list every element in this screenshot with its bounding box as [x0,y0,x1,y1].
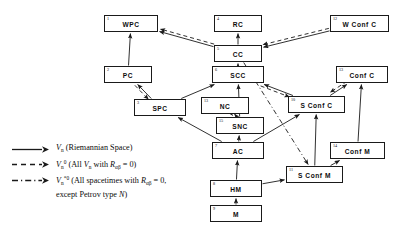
edge-hm-to-ac-solid [236,161,237,180]
node-wpc[interactable]: 1WPC [104,15,158,32]
edge-pc-to-wpc-solid [129,34,131,66]
node-m[interactable]: 9M [210,205,262,222]
legend-label-solid: Vn (Riemannian Space) [56,142,187,156]
node-confm[interactable]: 14Conf M [330,142,385,159]
node-label: WPC [105,20,157,27]
edge-pc-to-spc-dashed [135,85,149,99]
node-label: SNC [217,122,263,129]
node-label: W Conf C [331,20,388,27]
legend-line-dashdot [12,176,50,185]
node-label: Conf C [337,71,387,78]
node-label: Conf M [331,147,384,154]
legend-item-dashed: Vn0 (All Vn with Rαβ = 0) [12,157,187,173]
edge-snc-to-nc-solid [235,114,236,115]
legend-item-solid: Vn (Riemannian Space) [12,142,187,157]
node-sconfc[interactable]: 10S Conf C [288,96,345,113]
node-sconfm[interactable]: 11S Conf M [286,166,343,183]
node-pc[interactable]: 2PC [104,66,152,83]
node-label: SCC [213,71,263,78]
node-label: RC [215,20,261,27]
node-nc[interactable]: 13NC [201,97,249,114]
node-cc[interactable]: 5CC [214,45,262,62]
node-snc[interactable]: 15SNC [216,117,264,134]
legend-label-dashed: Vn0 (All Vn with Rαβ = 0) [56,157,187,173]
node-hm[interactable]: 8HM [210,180,262,197]
node-spc[interactable]: 3SPC [134,99,186,116]
node-label: S Conf C [289,101,344,108]
node-wconfc[interactable]: 12W Conf C [330,15,389,32]
node-label: NC [202,102,248,109]
node-scc[interactable]: 6SCC [212,66,264,83]
edge-scc-to-sconfc-dashed [261,86,290,97]
legend-item-dashdot: Vn*0 (All spacetimes with Rαβ = 0,except… [12,173,187,201]
edge-sconfm-to-confm-solid [331,161,340,166]
legend-line-solid [12,145,50,154]
node-label: PC [105,71,151,78]
node-confc[interactable]: 13Conf C [336,66,388,83]
edge-sconfc-to-confc-solid [330,85,347,96]
node-ac[interactable]: 7AC [212,142,264,159]
node-label: HM [211,185,261,192]
edge-nc-to-snc-solid [232,115,233,116]
node-label: SPC [135,104,185,111]
diagram-canvas: 1WPC4RC12W Conf C5CC2PC6SCC13Conf C3SPC1… [0,0,395,232]
edge-sconfc-to-scc-solid [264,85,293,96]
node-label: AC [213,147,263,154]
edge-cc-to-wpc-solid [160,31,214,46]
node-label: CC [215,50,261,57]
edge-wconfc-to-cc-solid [264,31,330,47]
edge-spc-to-pc-solid [138,85,152,99]
edge-wconfc-to-cc-dashed [263,28,329,44]
edge-cc-to-wpc-dashed [160,29,214,44]
node-label: S Conf M [287,171,342,178]
legend: Vn (Riemannian Space) Vn0 (All Vn with R… [12,142,187,201]
edge-hm-to-sconfm-solid [263,180,285,184]
edge-confm-to-confc-solid [358,85,361,142]
legend-line-dashed [12,160,50,169]
edge-sconfm-to-sconfc-solid [315,115,316,166]
node-rc[interactable]: 4RC [214,15,262,32]
node-label: M [211,210,261,217]
legend-label-dashdot: Vn*0 (All spacetimes with Rαβ = 0,except… [56,173,187,201]
